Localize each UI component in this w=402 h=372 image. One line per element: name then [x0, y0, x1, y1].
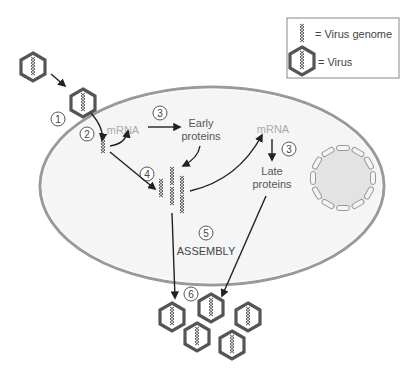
- virus-icon: [199, 294, 223, 322]
- virus-replication-diagram: = Virus genome = Virus 1 2 3 3 4 5 6: [0, 0, 402, 372]
- svg-text:3: 3: [157, 108, 163, 119]
- legend: = Virus genome = Virus: [287, 18, 399, 78]
- step-1: 1: [51, 112, 65, 126]
- legend-genome-label: = Virus genome: [315, 28, 392, 40]
- step-5: 5: [199, 226, 213, 240]
- virus-icon: [160, 303, 184, 331]
- step-3-late: 3: [282, 142, 296, 156]
- svg-text:3: 3: [286, 144, 292, 155]
- nuclear-envelope-segment: [337, 146, 350, 151]
- virus-icon: [185, 323, 209, 351]
- released-virions: [160, 294, 260, 359]
- label-mrna-early: mRNA: [107, 124, 140, 136]
- legend-virus-label: = Virus: [318, 56, 353, 68]
- svg-text:1: 1: [55, 114, 61, 125]
- label-mrna-late: mRNA: [257, 123, 290, 135]
- svg-text:4: 4: [144, 169, 150, 180]
- virus-icon: [236, 303, 260, 331]
- label-early-proteins-2: proteins: [181, 130, 221, 142]
- legend-virus-icon: [290, 47, 314, 75]
- step-6: 6: [184, 287, 198, 301]
- virus-icon: [220, 331, 244, 359]
- arrow-attach: [51, 74, 65, 86]
- nuclear-envelope-segment: [371, 172, 376, 185]
- virus-icon-free: [21, 53, 45, 81]
- step-2: 2: [80, 127, 94, 141]
- nuclear-envelope-segment: [311, 172, 316, 185]
- label-late-proteins-1: Late: [261, 165, 282, 177]
- svg-text:6: 6: [188, 289, 194, 300]
- label-early-proteins-1: Early: [188, 117, 214, 129]
- label-late-proteins-2: proteins: [252, 178, 292, 190]
- label-assembly: ASSEMBLY: [177, 245, 236, 257]
- svg-text:2: 2: [84, 129, 90, 140]
- nuclear-envelope-segment: [337, 206, 350, 211]
- svg-text:5: 5: [203, 228, 209, 239]
- step-3-early: 3: [153, 106, 167, 120]
